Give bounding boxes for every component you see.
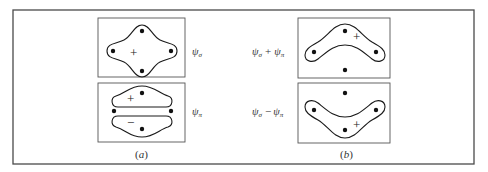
psi-sigma-diagram: + [98,18,185,77]
phase-sign: + [130,45,137,60]
atom-dot [140,127,144,131]
phase-sign-positive: + [127,91,134,106]
atom-dot [343,91,347,95]
phase-sign: + [353,117,360,132]
atom-dot [312,108,316,112]
lower-lobe [112,116,172,137]
atom-dot [343,29,347,33]
panel-b-caption: (b) [340,148,353,161]
atom-dot [343,68,347,72]
atom-dot [140,91,144,95]
panel-a-caption: (a) [135,148,148,161]
psi-pi-label: ψπ [192,106,203,119]
panel-a: + ψσ + − ψπ (a) [98,18,203,161]
atom-dot [111,49,115,53]
psi-sum-diagram: + [298,18,390,78]
psi-sum-label: ψσ+ψπ [252,45,285,59]
atom-dot [169,109,173,113]
atom-dot [312,50,316,54]
psi-difference-diagram: + [298,83,390,143]
banana-orbital-lower [305,101,385,138]
atom-dot [343,128,347,132]
atom-dot [140,29,144,33]
atom-dot [374,50,378,54]
atom-dot [140,69,144,73]
atom-dot [169,49,173,53]
outer-frame [13,10,474,164]
psi-sigma-label: ψσ [192,46,203,59]
upper-lobe [112,86,172,107]
panel-b: ψσ+ψπ + ψσ−ψπ + (b) [252,18,390,161]
orbital-figure: + ψσ + − ψπ (a) ψσ+ψπ [0,0,488,172]
psi-pi-diagram: + − [98,83,185,142]
atom-dot [374,108,378,112]
atom-dot [112,109,116,113]
psi-difference-label: ψσ−ψπ [252,105,284,119]
phase-sign: + [353,29,360,44]
diagram-box [98,18,185,77]
phase-sign-negative: − [127,115,134,130]
